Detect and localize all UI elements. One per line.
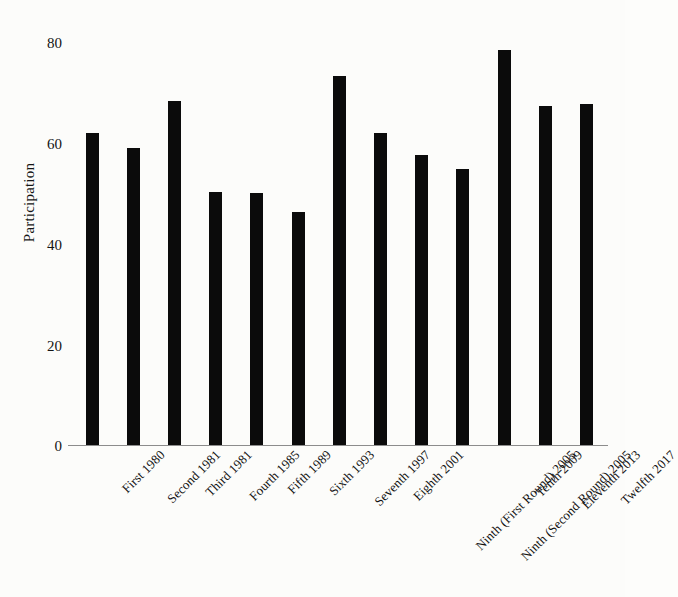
plot-area [68, 40, 608, 445]
y-tick-label-40: 40 [32, 238, 62, 252]
y-tick-label-20: 20 [32, 339, 62, 353]
y-tick-label-60: 60 [32, 137, 62, 151]
bar [292, 212, 305, 445]
x-axis-line [68, 445, 608, 446]
bar [498, 50, 511, 445]
bar [86, 133, 99, 445]
bar [209, 192, 222, 445]
bar [539, 106, 552, 445]
y-axis-tick-labels: 80 60 40 20 0 [26, 40, 62, 445]
bar-series [68, 40, 608, 445]
x-tick-label: First 1980 [119, 447, 169, 497]
y-tick-label-0: 0 [32, 439, 62, 453]
x-axis-tick-labels: First 1980Second 1981Third 1981Fourth 19… [68, 447, 613, 597]
bar [415, 155, 428, 445]
bar [333, 76, 346, 445]
bar [374, 133, 387, 445]
bar [580, 104, 593, 445]
bar [127, 148, 140, 445]
bar [168, 101, 181, 445]
x-tick-label: Sixth 1993 [326, 447, 378, 499]
y-tick-label-80: 80 [32, 36, 62, 50]
bar [456, 169, 469, 445]
bar [250, 193, 263, 445]
